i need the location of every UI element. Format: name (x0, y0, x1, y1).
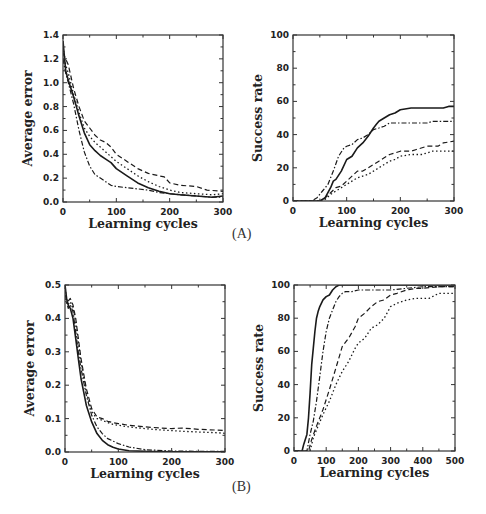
series-group (293, 106, 454, 201)
series-dashed (65, 295, 225, 431)
plot-frame (293, 35, 454, 201)
y-tick-label: 0 (284, 446, 290, 456)
series-solid (293, 106, 454, 201)
y-tick-label: 0.1 (45, 414, 61, 424)
y-tick-label: 0.8 (43, 102, 59, 112)
series-dotted (294, 293, 455, 451)
y-tick-label: 0.3 (45, 347, 61, 357)
chart-a-left: 01002003000.00.20.40.60.81.01.21.4Learni… (20, 30, 232, 231)
y-tick-label: 0.5 (45, 280, 61, 290)
y-tick-label: 0.2 (43, 173, 59, 183)
panel-label-a: (A) (232, 226, 251, 242)
series-solid (65, 285, 225, 452)
y-tick-label: 0.4 (43, 149, 59, 159)
series-dash-dot (65, 285, 225, 451)
y-axis-label: Average error (22, 320, 37, 418)
series-group (65, 285, 225, 452)
x-tick-label: 500 (446, 456, 465, 466)
y-axis-label: Success rate (250, 74, 265, 162)
plot-frame (63, 35, 223, 202)
y-tick-label: 40 (276, 130, 289, 140)
x-tick-label: 0 (291, 456, 297, 466)
x-tick-label: 0 (62, 457, 68, 467)
series-dash-dot (63, 59, 223, 197)
panel-label-b: (B) (232, 479, 251, 495)
series-dash-dot (293, 121, 454, 201)
y-tick-label: 80 (276, 63, 289, 73)
series-group (294, 285, 455, 451)
y-tick-label: 0.4 (45, 313, 61, 323)
x-axis-label: Learning cycles (319, 215, 429, 230)
series-dashed (63, 53, 223, 191)
series-solid (294, 285, 455, 451)
x-axis-label: Learning cycles (320, 465, 430, 480)
y-tick-label: 0.2 (45, 380, 61, 390)
y-tick-label: 20 (277, 413, 290, 423)
y-tick-label: 0.6 (43, 125, 59, 135)
x-tick-label: 300 (214, 207, 233, 217)
y-tick-label: 1.2 (43, 54, 59, 64)
y-tick-label: 60 (276, 96, 289, 106)
y-tick-label: 0.0 (45, 447, 61, 457)
figure-svg: 01002003000.00.20.40.60.81.01.21.4Learni… (0, 0, 486, 514)
y-tick-label: 0 (283, 196, 289, 206)
y-tick-label: 1.4 (43, 30, 59, 40)
series-solid (63, 41, 223, 197)
x-tick-label: 300 (216, 457, 235, 467)
series-dotted (63, 47, 223, 195)
x-axis-label: Learning cycles (88, 216, 198, 231)
y-axis-label: Success rate (251, 324, 266, 412)
series-dotted (293, 151, 454, 201)
x-tick-label: 0 (60, 207, 66, 217)
y-tick-label: 0.0 (43, 197, 59, 207)
chart-b-right: 0100200300400500020406080100Learning cyc… (251, 280, 464, 480)
y-tick-label: 40 (277, 380, 290, 390)
series-group (63, 41, 223, 197)
y-tick-label: 80 (277, 313, 290, 323)
x-tick-label: 0 (290, 206, 296, 216)
y-tick-label: 100 (271, 280, 290, 290)
figure: 01002003000.00.20.40.60.81.01.21.4Learni… (0, 0, 486, 514)
plot-frame (65, 285, 225, 452)
chart-b-left: 01002003000.00.10.20.30.40.5Learning cyc… (22, 280, 234, 481)
y-tick-label: 60 (277, 346, 290, 356)
chart-a-right: 0100200300020406080100Learning cyclesSuc… (250, 30, 463, 230)
x-tick-label: 300 (445, 206, 464, 216)
y-axis-label: Average error (20, 70, 35, 168)
y-tick-label: 1.0 (43, 78, 59, 88)
x-axis-label: Learning cycles (90, 466, 200, 481)
y-tick-label: 20 (276, 163, 289, 173)
y-tick-label: 100 (270, 30, 289, 40)
